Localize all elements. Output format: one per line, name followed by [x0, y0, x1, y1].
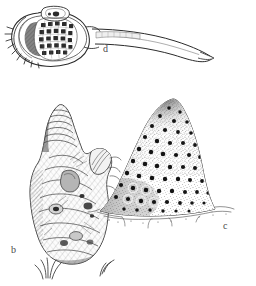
figure-label-c: c	[223, 221, 227, 231]
figure-label-d: d	[103, 44, 108, 54]
figure-d-tail-midline	[99, 36, 210, 58]
figure-d	[0, 0, 256, 286]
figure-d-apical-chamber	[41, 6, 69, 21]
figure-label-b: b	[11, 245, 16, 255]
figure-d-tail-lower-edge	[95, 44, 213, 62]
figure-d-tail-tube	[96, 32, 140, 39]
figure-plate: d b c	[0, 0, 256, 286]
figure-d-group	[5, 6, 214, 68]
figure-b-group	[25, 100, 121, 279]
figure-c-base-tufts	[122, 216, 200, 228]
